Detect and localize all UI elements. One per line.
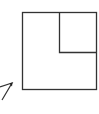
diagram-svg bbox=[0, 0, 99, 114]
diagram-canvas bbox=[0, 0, 99, 114]
partial-pointer-shape bbox=[0, 83, 12, 100]
inner-square bbox=[60, 13, 97, 53]
